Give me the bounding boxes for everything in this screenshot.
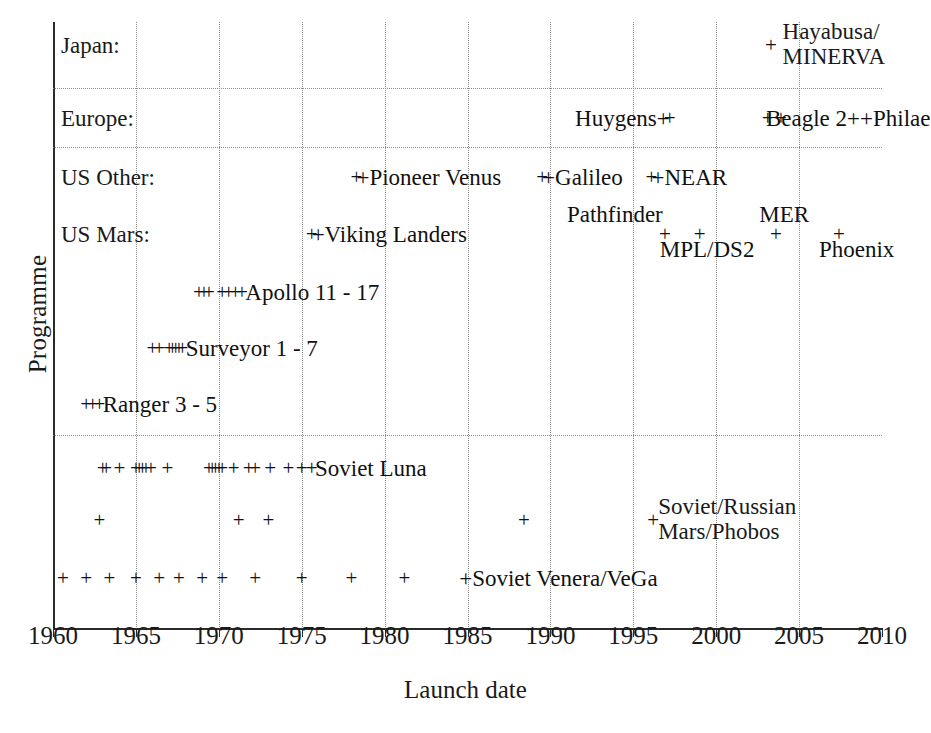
data-marker: + (296, 568, 308, 589)
series-label: MER (759, 203, 809, 226)
series-label-stacked: Soviet/RussianMars/Phobos (658, 495, 796, 545)
series-label: Soviet Luna (315, 457, 427, 480)
data-marker: + (103, 568, 115, 589)
gridline-1990 (550, 22, 551, 629)
y-axis-title: Programme (24, 214, 52, 414)
data-marker: + (518, 510, 530, 531)
data-marker: + (249, 458, 261, 479)
data-marker: + (346, 568, 358, 589)
gridline-1970 (219, 22, 220, 629)
xtick-label-1960: 1960 (28, 622, 78, 650)
data-marker: + (145, 458, 157, 479)
xtick-label-2000: 2000 (691, 622, 741, 650)
row-label-us-mars: US Mars: (61, 223, 150, 246)
row-separator-2 (53, 435, 882, 436)
series-label: +Viking Landers (312, 223, 467, 246)
data-marker: + (399, 568, 411, 589)
xtick-label-1980: 1980 (360, 622, 410, 650)
launch-timeline-chart: Programme Launch date ++++++++++++++++++… (0, 0, 931, 733)
series-label: Apollo 11 - 17 (245, 281, 379, 304)
xtick-label-2010: 2010 (857, 622, 907, 650)
series-label: Ranger 3 - 5 (103, 393, 217, 416)
gridline-1965 (136, 22, 137, 629)
data-marker: + (173, 568, 185, 589)
data-marker: + (130, 568, 142, 589)
xtick-label-2005: 2005 (774, 622, 824, 650)
data-marker: + (233, 510, 245, 531)
series-label: +NEAR (652, 166, 728, 189)
data-marker: + (113, 458, 125, 479)
data-marker: + (228, 458, 240, 479)
data-marker: + (196, 568, 208, 589)
data-marker: + (770, 224, 782, 245)
y-axis-line (53, 22, 55, 629)
row-separator-0 (53, 88, 882, 89)
data-marker: + (80, 568, 92, 589)
series-label: Pathfinder (567, 203, 663, 226)
series-label-stacked: Hayabusa/MINERVA (783, 20, 886, 70)
data-marker: + (161, 458, 173, 479)
xtick-label-1965: 1965 (111, 622, 161, 650)
xtick-label-1995: 1995 (608, 622, 658, 650)
plot-area: ++++++++++++++++++++++++++++++++++++++++… (53, 22, 882, 629)
xtick-label-1970: 1970 (194, 622, 244, 650)
series-label: +Galileo (542, 166, 623, 189)
data-marker: + (216, 458, 228, 479)
xtick-label-1975: 1975 (277, 622, 327, 650)
x-axis-title: Launch date (0, 676, 931, 704)
xtick-label-1985: 1985 (443, 622, 493, 650)
data-marker: + (263, 510, 275, 531)
data-marker: + (249, 568, 261, 589)
series-label: Surveyor 1 - 7 (186, 337, 318, 360)
gridline-1980 (385, 22, 386, 629)
data-marker: + (765, 35, 777, 56)
gridline-1985 (468, 22, 469, 629)
xtick-label-1990: 1990 (525, 622, 575, 650)
row-separator-1 (53, 147, 882, 148)
data-marker: + (94, 510, 106, 531)
data-marker: + (283, 458, 295, 479)
row-label-us-other: US Other: (61, 166, 155, 189)
data-marker: + (264, 458, 276, 479)
series-label: Beagle 2++Philae (766, 107, 931, 130)
series-label: Huygens+ (575, 107, 670, 130)
row-label-europe: Europe: (61, 107, 134, 130)
series-label: +Soviet Venera/VeGa (459, 567, 657, 590)
data-marker: + (153, 568, 165, 589)
series-label: Phoenix (819, 238, 894, 261)
series-label: +Pioneer Venus (356, 166, 501, 189)
data-marker: + (100, 458, 112, 479)
data-marker: + (203, 282, 215, 303)
data-marker: + (57, 568, 69, 589)
row-label-japan: Japan: (61, 34, 120, 57)
gridline-1975 (302, 22, 303, 629)
series-label: MPL/DS2 (660, 238, 755, 261)
data-marker: + (216, 568, 228, 589)
